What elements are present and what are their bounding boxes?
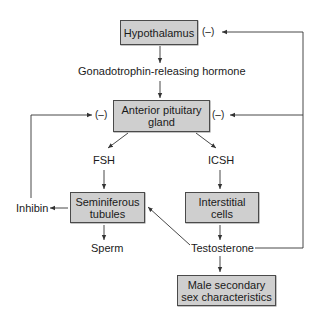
icsh-label: ICSH — [208, 154, 234, 166]
inhibin-label: Inhibin — [16, 202, 48, 214]
seminiferous-label-2: tubules — [90, 208, 125, 220]
feedback-testosterone-pituitary — [230, 115, 303, 248]
node-interstitial-cells: Interstitial cells — [185, 192, 259, 223]
interstitial-label-2: cells — [211, 208, 233, 220]
node-seminiferous-tubules: Seminiferous tubules — [70, 192, 145, 223]
arrow-pituitary-fsh — [108, 133, 128, 148]
node-hypothalamus: Hypothalamus — [120, 20, 198, 45]
pituitary-right-negative-feedback: (–) — [212, 109, 224, 121]
gnrh-label: Gonadotrophin-releasing hormone — [78, 65, 246, 77]
feedback-inhibin-pituitary — [31, 115, 92, 198]
anterior-pituitary-label-1: Anterior pituitary — [121, 104, 201, 116]
anterior-pituitary-label-2: gland — [148, 116, 175, 128]
node-anterior-pituitary: Anterior pituitary gland — [113, 100, 210, 132]
connector-lines — [0, 0, 317, 319]
arrow-pituitary-icsh — [196, 133, 216, 148]
seminiferous-label-1: Seminiferous — [75, 196, 139, 208]
hypothalamus-label: Hypothalamus — [124, 27, 194, 39]
pituitary-left-negative-feedback: (–) — [95, 109, 107, 121]
male-secondary-label-2: sex characteristics — [181, 291, 271, 303]
node-male-secondary-sex-characteristics: Male secondary sex characteristics — [177, 275, 276, 306]
fsh-label: FSH — [93, 154, 115, 166]
interstitial-label-1: Interstitial — [198, 196, 245, 208]
male-secondary-label-1: Male secondary — [188, 279, 266, 291]
hypothalamus-negative-feedback: (–) — [202, 26, 214, 38]
testosterone-label: Testosterone — [191, 242, 254, 254]
sperm-label: Sperm — [91, 242, 123, 254]
arrow-testosterone-seminiferous — [148, 207, 190, 245]
